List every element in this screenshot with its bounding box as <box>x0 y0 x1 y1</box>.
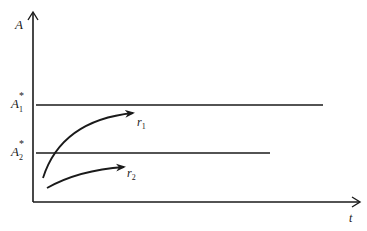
level-a1-sub: 1 <box>19 105 23 114</box>
level-label-a2: A*2 <box>11 145 23 158</box>
y-axis-label: A <box>15 18 23 31</box>
diagram-canvas: A t A*1 A*2 r1 r2 <box>0 0 367 231</box>
level-a2-star: * <box>19 139 24 149</box>
curve-r2 <box>47 167 124 188</box>
level-a1-star: * <box>19 91 24 101</box>
level-label-a1: A*1 <box>11 97 23 110</box>
curve-r2-sub: 2 <box>132 173 136 182</box>
level-a2-sub: 2 <box>19 153 23 162</box>
diagram-svg <box>0 0 367 231</box>
curve-r1-sub: 1 <box>142 122 146 131</box>
x-axis-label-text: t <box>349 211 352 225</box>
level-a1-letter: A <box>11 96 19 111</box>
x-axis <box>33 197 360 207</box>
curve-r1-letter: r <box>137 115 142 129</box>
level-a2-letter: A <box>11 144 19 159</box>
curve-label-r1: r1 <box>137 116 146 128</box>
x-axis-label: t <box>349 212 352 224</box>
y-axis <box>28 12 38 202</box>
y-axis-label-text: A <box>15 17 23 32</box>
curve-r2-letter: r <box>127 166 132 180</box>
curve-label-r2: r2 <box>127 167 136 179</box>
